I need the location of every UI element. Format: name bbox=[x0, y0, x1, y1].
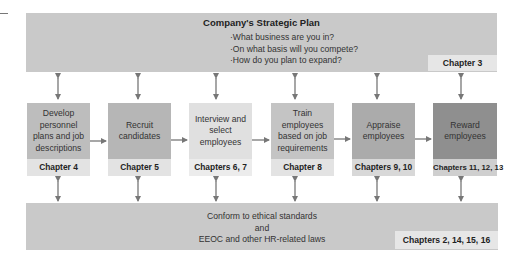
double-arrows-top bbox=[58, 78, 461, 99]
double-arrows-bottom bbox=[58, 181, 461, 201]
flow-arrows bbox=[90, 139, 431, 141]
connector-arrows bbox=[0, 0, 530, 260]
